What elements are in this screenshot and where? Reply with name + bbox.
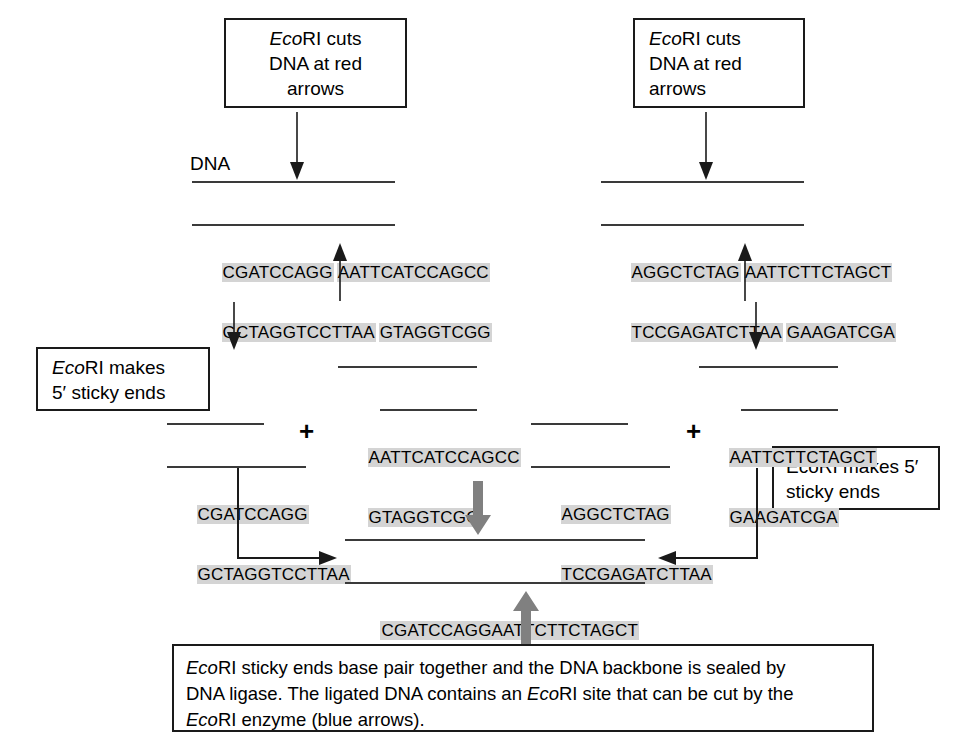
seq-bottom-right-part: GAAGATCGA (786, 323, 896, 342)
arrow-down-topright-to-dna (694, 112, 718, 182)
elbow-arrow-left-to-ligated (225, 468, 345, 568)
callout-top-left-line1-rest: RI cuts (302, 28, 361, 49)
eco-italic: Eco (186, 657, 218, 678)
thick-arrow-up-from-caption (511, 589, 541, 645)
figure-canvas: EcoRI cuts DNA at red arrows EcoRI cuts … (0, 0, 970, 743)
seq-top-right-part: AATTCATCCAGCC (337, 263, 490, 282)
arrow-down-left-to-sticky-ends (222, 302, 246, 352)
callout-top-right-line3: arrows (649, 76, 793, 101)
callout-top-left-line1: EcoRI cuts (236, 26, 395, 51)
callout-left-middle-line2: 5′ sticky ends (52, 380, 198, 405)
caption-line-3-rest: RI enzyme (blue arrows). (218, 709, 425, 730)
caption-line-3: EcoRI enzyme (blue arrows). (186, 707, 860, 733)
elbow-arrow-right-to-ligated (650, 468, 770, 568)
backbone-top (345, 539, 645, 541)
caption-line-2-a: DNA ligase. The ligated DNA contains an (186, 683, 527, 704)
caption-box-ligation-explanation: EcoRI sticky ends base pair together and… (172, 644, 874, 732)
arrow-down-topleft-to-dna (285, 112, 309, 182)
callout-top-left-line3: arrows (236, 76, 395, 101)
fragment-left-sticky-end: AATTCATCCAGCC GTAGGTCGG (338, 366, 521, 568)
seq-top-left-part: AGGCTCTAG (631, 263, 741, 282)
callout-box-top-right: EcoRI cuts DNA at red arrows (633, 18, 805, 108)
backbone-bottom (601, 224, 804, 226)
backbone-bottom (192, 224, 395, 226)
backbone-bottom (741, 409, 838, 411)
seq-bottom-right-part: GTAGGTCGG (379, 323, 492, 342)
caption-line-2-b: RI site that can be cut by the (559, 683, 793, 704)
seq-top-right-part: AATTCTTCTAGCT (744, 263, 892, 282)
dna-label: DNA (190, 153, 230, 175)
eco-italic: Eco (649, 28, 682, 49)
seq-top: AATTCTTCTAGCT (729, 448, 877, 467)
arrow-up-right-fragment-to-duplex (733, 243, 757, 301)
callout-left-middle-line1-rest: RI makes (85, 357, 165, 378)
backbone-top (699, 366, 838, 368)
eco-italic: Eco (52, 357, 85, 378)
eco-italic: Eco (270, 28, 303, 49)
callout-left-middle-line1: EcoRI makes (52, 355, 198, 380)
callout-top-right-line2: DNA at red (649, 51, 793, 76)
callout-top-left-line2: DNA at red (236, 51, 395, 76)
backbone-bottom (380, 409, 477, 411)
backbone-top (167, 423, 264, 425)
callout-top-right-line1-rest: RI cuts (682, 28, 741, 49)
eco-italic: Eco (527, 683, 559, 704)
strand-top: AATTCATCCAGCC (338, 426, 521, 448)
backbone-bottom (345, 582, 645, 584)
caption-line-2: DNA ligase. The ligated DNA contains an … (186, 681, 860, 707)
arrow-up-left-fragment-to-duplex (328, 243, 352, 301)
strand-bottom: GTAGGTCGG (338, 488, 477, 508)
caption-line-1: EcoRI sticky ends base pair together and… (186, 655, 860, 681)
strand-top: AATTCTTCTAGCT (699, 426, 877, 448)
eco-italic: Eco (186, 709, 218, 730)
caption-line-1-rest: RI sticky ends base pair together and th… (218, 657, 786, 678)
seq-top: CGATCCAGGAATTCTTCTAGCT (380, 621, 639, 640)
callout-box-top-left: EcoRI cuts DNA at red arrows (224, 18, 407, 108)
plus-sign-left: + (299, 418, 314, 444)
backbone-top (531, 423, 628, 425)
callout-box-left-middle: EcoRI makes 5′ sticky ends (36, 347, 210, 411)
seq-top-left-part: CGATCCAGG (222, 263, 334, 282)
arrow-down-right-to-sticky-ends (744, 302, 768, 352)
plus-sign-right: + (686, 418, 701, 444)
backbone-top (338, 366, 477, 368)
callout-top-right-line1: EcoRI cuts (649, 26, 793, 51)
backbone-top (601, 181, 804, 183)
thick-arrow-down-ligation (463, 481, 493, 537)
strand-top: CGATCCAGGAATTCTTCTAGCT (345, 599, 645, 621)
backbone-top (192, 181, 395, 183)
seq-top: AATTCATCCAGCC (368, 448, 521, 467)
